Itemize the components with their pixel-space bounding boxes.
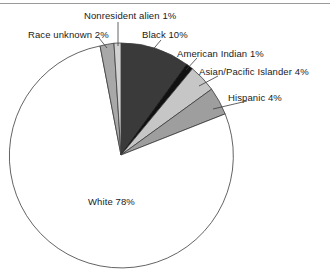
slice-label-nonresident-alien: Nonresident alien 1% bbox=[84, 10, 176, 21]
pie-chart-canvas bbox=[0, 0, 330, 280]
pie-chart-figure: Nonresident alien 1% Race unknown 2% Bla… bbox=[0, 0, 330, 280]
slice-label-white: White 78% bbox=[88, 196, 135, 207]
slice-label-american-indian: American Indian 1% bbox=[177, 48, 264, 59]
slice-label-asian-pacific-islander: Asian/Pacific Islander 4% bbox=[199, 66, 309, 77]
slice-label-black: Black 10% bbox=[142, 29, 188, 40]
slice-label-hispanic: Hispanic 4% bbox=[228, 92, 282, 103]
slice-label-race-unknown: Race unknown 2% bbox=[28, 29, 109, 40]
